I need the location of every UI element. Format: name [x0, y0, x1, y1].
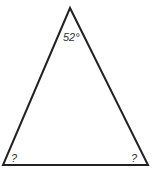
bottom-right-angle-label: ?	[131, 152, 138, 164]
triangle-diagram: 52° ? ?	[0, 0, 152, 174]
bottom-left-angle-label: ?	[11, 152, 18, 164]
apex-angle-label: 52°	[63, 31, 80, 43]
